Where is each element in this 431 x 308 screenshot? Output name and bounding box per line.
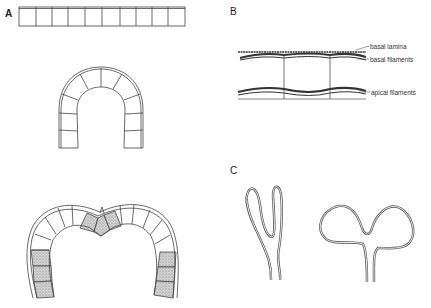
double-arch-epithelium [27,205,178,298]
y-shaped-fold-inner [247,187,282,280]
arched-epithelium [59,67,143,148]
y-shaped-fold [247,187,282,280]
mushroom-fold-inner [320,206,413,282]
flat-epithelium [19,7,185,26]
diagram-canvas [0,0,431,308]
filament-section [238,46,370,99]
